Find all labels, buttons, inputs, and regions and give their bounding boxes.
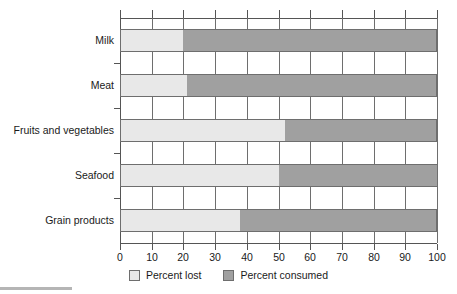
x-axis-label: 20 — [168, 251, 198, 263]
bar-row — [120, 74, 437, 97]
bar-segment[interactable] — [120, 119, 285, 142]
bar-segment[interactable] — [187, 74, 437, 97]
bar-segment[interactable] — [285, 119, 437, 142]
category-label: Grain products — [0, 214, 114, 226]
category-label: Seafood — [0, 169, 114, 181]
category-label: Milk — [0, 34, 114, 46]
top-tick-30 — [215, 10, 216, 18]
bottom-tick-60 — [310, 244, 311, 250]
legend-swatch-percent-lost — [129, 270, 140, 281]
legend-label-percent-consumed: Percent consumed — [240, 269, 328, 281]
bar-row — [120, 119, 437, 142]
bottom-tick-90 — [405, 244, 406, 250]
top-tick-90 — [405, 10, 406, 18]
bar-segment[interactable] — [183, 29, 437, 52]
legend-item-percent-consumed[interactable]: Percent consumed — [223, 269, 328, 281]
top-tick-50 — [279, 10, 280, 18]
top-tick-60 — [310, 10, 311, 18]
legend-swatch-percent-consumed — [223, 270, 234, 281]
category-label: Meat — [0, 79, 114, 91]
bar-segment[interactable] — [120, 29, 183, 52]
bottom-tick-80 — [374, 244, 375, 250]
bottom-tick-20 — [183, 244, 184, 250]
bar-segment[interactable] — [120, 209, 240, 232]
bar-segment[interactable] — [120, 164, 279, 187]
bar-row — [120, 209, 437, 232]
footer-rule — [0, 287, 72, 290]
bottom-tick-100 — [437, 244, 438, 250]
chart-legend: Percent lost Percent consumed — [0, 269, 457, 281]
x-axis-label: 90 — [390, 251, 420, 263]
bar-segment[interactable] — [120, 74, 187, 97]
x-axis-label: 50 — [264, 251, 294, 263]
legend-label-percent-lost: Percent lost — [146, 269, 201, 281]
top-tick-20 — [183, 10, 184, 18]
bar-row — [120, 29, 437, 52]
top-tick-0 — [120, 10, 121, 18]
gridline-100 — [437, 18, 438, 243]
x-axis-label: 40 — [232, 251, 262, 263]
plot-area — [120, 18, 437, 243]
x-axis-label: 60 — [295, 251, 325, 263]
top-tick-70 — [342, 10, 343, 18]
top-tick-10 — [152, 10, 153, 18]
x-axis-label: 70 — [327, 251, 357, 263]
x-axis-label: 100 — [422, 251, 452, 263]
bar-segment[interactable] — [279, 164, 438, 187]
x-axis-label: 80 — [359, 251, 389, 263]
top-tick-80 — [374, 10, 375, 18]
x-axis-label: 30 — [200, 251, 230, 263]
x-axis-label: 10 — [137, 251, 167, 263]
bar-row — [120, 164, 437, 187]
stacked-bar-chart: MilkMeatFruits and vegetablesSeafoodGrai… — [0, 0, 457, 294]
bottom-tick-70 — [342, 244, 343, 250]
top-tick-100 — [437, 10, 438, 18]
bottom-tick-40 — [247, 244, 248, 250]
bottom-tick-10 — [152, 244, 153, 250]
bar-segment[interactable] — [240, 209, 437, 232]
bottom-tick-0 — [120, 244, 121, 250]
bottom-tick-30 — [215, 244, 216, 250]
bottom-tick-50 — [279, 244, 280, 250]
legend-item-percent-lost[interactable]: Percent lost — [129, 269, 201, 281]
category-label: Fruits and vegetables — [0, 124, 114, 136]
x-axis-label: 0 — [105, 251, 135, 263]
top-tick-40 — [247, 10, 248, 18]
